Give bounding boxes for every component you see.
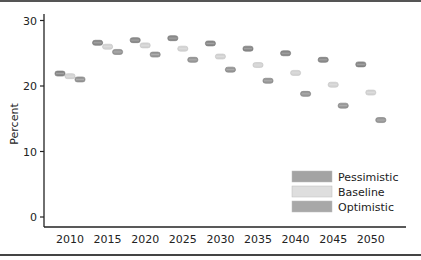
y-axis-label: Percent	[8, 103, 21, 145]
data-markers	[55, 36, 386, 123]
x-tick-label: 2030	[206, 233, 234, 246]
y-tick-label: 0	[30, 211, 37, 224]
x-tick-label: 2010	[56, 233, 84, 246]
y-tick-label: 30	[23, 15, 37, 28]
legend-label-baseline: Baseline	[338, 186, 385, 199]
legend-swatch-pessimistic	[292, 171, 332, 182]
legend: PessimisticBaselineOptimistic	[292, 171, 398, 214]
y-tick-label: 20	[23, 80, 37, 93]
legend-label-pessimistic: Pessimistic	[338, 171, 398, 184]
x-tick-label: 2025	[169, 233, 197, 246]
x-tick-label: 2020	[131, 233, 159, 246]
legend-swatch-baseline	[292, 186, 332, 197]
y-tick-label: 10	[23, 146, 37, 159]
x-tick-label: 2050	[357, 233, 385, 246]
legend-swatch-optimistic	[292, 201, 332, 212]
x-tick-label: 2045	[319, 233, 347, 246]
legend-label-optimistic: Optimistic	[338, 201, 394, 214]
x-tick-label: 2035	[244, 233, 272, 246]
chart-area: 0102030Percent20102015202020252030203520…	[0, 0, 421, 260]
x-tick-label: 2015	[94, 233, 122, 246]
x-tick-label: 2040	[282, 233, 310, 246]
